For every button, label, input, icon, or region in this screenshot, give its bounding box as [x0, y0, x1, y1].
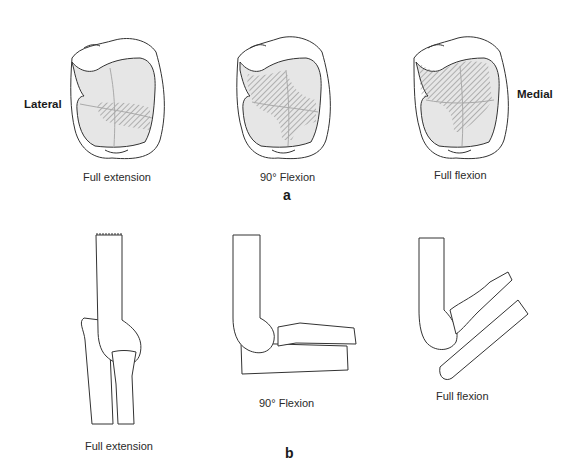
- medial-label: Medial: [517, 88, 553, 100]
- plateau-full-extension: [71, 39, 165, 159]
- plateau-90-flexion: [237, 37, 331, 159]
- plateau-full-flexion: [414, 37, 508, 159]
- caption-a-full-extension: Full extension: [83, 171, 151, 183]
- knee-full-extension: [81, 234, 141, 424]
- caption-b-90-flexion: 90° Flexion: [259, 397, 314, 409]
- caption-b-full-flexion: Full flexion: [436, 390, 489, 402]
- caption-a-full-flexion: Full flexion: [434, 169, 487, 181]
- knee-full-flexion: [419, 238, 528, 380]
- panel-label-a: a: [283, 187, 291, 203]
- knee-90-flexion: [233, 235, 356, 374]
- caption-b-full-extension: Full extension: [85, 440, 153, 452]
- caption-a-90-flexion: 90° Flexion: [260, 171, 315, 183]
- lateral-label: Lateral: [24, 98, 62, 110]
- panel-label-b: b: [285, 445, 294, 461]
